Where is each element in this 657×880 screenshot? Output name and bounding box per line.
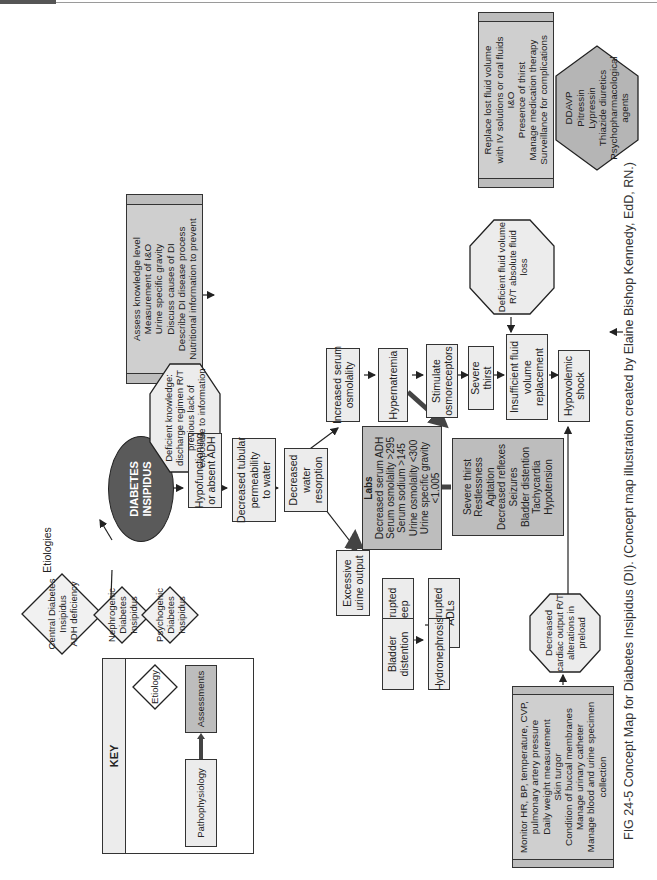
patho-hypovolemic-shock: Hypovolemicshock	[558, 350, 590, 422]
text-line: collection	[597, 757, 608, 798]
text-line: Nutritional information to prevent	[187, 218, 198, 360]
text-line: volume	[521, 341, 534, 413]
text-line: Etiology	[149, 670, 162, 704]
etiology-central-di: Central Diabetes Insipidus ADH deficienc…	[22, 574, 102, 654]
text-line: previous lack of	[185, 385, 196, 451]
patho-insufficient-fluid-replacement: Insufficient fluidvolumereplacement	[506, 334, 548, 420]
diagnosis-decreased-cardiac-output: Decreased cardiac output R/T alterations…	[530, 594, 600, 672]
text-line: Insipidus	[176, 596, 187, 634]
text-line: Lypressin	[586, 87, 597, 129]
text-line: <1.005	[430, 473, 441, 504]
text-line: Describe DI disease process	[176, 227, 187, 352]
text-line: Thiazide diuretics	[597, 70, 608, 146]
text-line: Tachycardia	[531, 460, 543, 513]
text-line: Nephrogenic	[106, 588, 117, 642]
text-line: replacement	[533, 341, 546, 413]
text-line: osmoreceptors	[442, 346, 455, 415]
text-line: exposure to information	[196, 368, 207, 467]
labs-title: Labs	[363, 476, 374, 499]
patho-decreased-tubular-permeability: Decreased tubularpermeabilityto water	[232, 438, 276, 522]
text-line: preload	[576, 617, 587, 649]
text-line: cardiac output R/T	[554, 594, 565, 672]
text-line: Hypotension	[543, 459, 555, 515]
text-line: Hypovolemic	[562, 356, 575, 416]
text-line: Decreased tubular	[235, 437, 248, 523]
medications: DDAVP Pitressin Lypressin Thiazide diure…	[556, 46, 638, 170]
text-line: Urine specific gravity	[419, 442, 430, 534]
patho-hypernatremia: Hypernatremia	[378, 348, 408, 422]
text-line: Urine osmolality <300	[408, 440, 419, 536]
text-line: Seizures	[508, 468, 520, 507]
text-line: Serum sodium >145	[396, 443, 407, 533]
key-arrow	[197, 731, 205, 761]
text-line: Serum osmolality >295	[385, 437, 396, 539]
text-line: Manage urinary catheter	[574, 724, 585, 830]
patho-stimulate-osmoreceptors: Stimulateosmoreceptors	[426, 344, 458, 418]
intervention-cardiac-monitoring: Monitor HR, BP, temperature, CVP, pulmon…	[512, 686, 614, 868]
text-line: Decreased	[287, 455, 300, 506]
text-line: alterations in	[565, 606, 576, 660]
text-line: Stimulate	[430, 346, 443, 415]
key-pathophysiology: Pathophysiology	[185, 759, 217, 847]
text-line: shock	[574, 356, 587, 416]
text-line: Restlessness	[473, 457, 485, 516]
key-etiology: Etiology	[133, 665, 177, 709]
figure-label: FIG 24-5	[622, 791, 636, 840]
text-line: Surveillance for complications	[538, 35, 549, 165]
text-line: Insipidus	[128, 596, 139, 634]
text-line: Replace lost fluid volume	[482, 46, 493, 155]
text-line: Hydronephrosis	[433, 617, 446, 691]
text-line: permeability	[248, 437, 261, 523]
text-line: Deficient fluid volume	[496, 222, 507, 312]
text-line: Urine specific gravity	[153, 244, 164, 334]
text-line: urine output	[353, 555, 366, 610]
text-line: Decreased	[543, 610, 554, 656]
figure-caption: FIG 24-5 Concept Map for Diabetes Insipi…	[622, 162, 636, 840]
text-line: Insipidus	[57, 595, 68, 633]
text-line: Decreased serum ADH	[374, 437, 385, 539]
text-line: water	[300, 455, 313, 506]
text-line: Pitressin	[575, 89, 586, 127]
patho-hydronephrosis: Hydronephrosis	[428, 618, 450, 690]
text-line: Discuss causes of DI	[165, 243, 176, 334]
text-line: Diabetes	[117, 596, 128, 634]
text-line: loss	[518, 259, 529, 276]
text-line: Severe thirst	[469, 351, 494, 405]
text-line: resorption	[312, 455, 325, 506]
text-line: Pathophysiology	[195, 768, 208, 838]
figure-title: Concept Map for Diabetes Insipidus (DI).	[622, 561, 636, 787]
text-line: Hypernatremia	[387, 351, 400, 420]
text-line: pulmonary artery pressure	[529, 720, 540, 834]
patho-severe-thirst: Severe thirst	[468, 346, 494, 410]
patho-bladder-distention: Bladderdistention	[382, 618, 414, 690]
text-line: Severe thirst	[462, 459, 474, 515]
text-line: distention	[398, 632, 411, 677]
patho-increased-serum-osmolality: Increased serumosmolality	[326, 348, 360, 422]
text-line: Etiologies	[41, 527, 54, 573]
assessment-symptoms: Severe thirst Restlessness Agitation Dec…	[452, 438, 564, 536]
intervention-knowledge: Assess knowledge level Measurement of I&…	[126, 194, 203, 384]
etiology-psychogenic-di: Psychogenic Diabetes Insipidus	[142, 587, 198, 643]
text-line: Skin turgor	[552, 753, 563, 800]
arrow-etiologies-to-central	[100, 520, 112, 540]
figure-credit: (Concept map illustration created by Ela…	[622, 162, 636, 558]
text-line: Decreased reflexes	[496, 444, 508, 530]
text-line: Insufficient fluid	[508, 341, 521, 413]
intervention-fluid-replacement: Replace lost fluid volume with IV soluti…	[478, 12, 554, 188]
text-line: Condition of buccal membranes	[563, 708, 574, 846]
key-legend: KEY Etiology Assessments Pathophysiology	[102, 658, 254, 854]
text-line: Daily weight measurement	[541, 719, 552, 834]
key-assessments: Assessments	[185, 665, 217, 733]
text-line: discharge regimen R/T	[174, 370, 185, 466]
text-line: Monitor HR, BP, temperature, CVP,	[518, 701, 529, 853]
concept-map: Assess knowledge level Measurement of I&…	[0, 0, 657, 880]
key-title: KEY	[108, 745, 121, 768]
text-line: Diabetes	[165, 596, 176, 634]
assessment-labs: Labs Decreased serum ADH Serum osmolalit…	[362, 426, 442, 550]
text-line: Assessments	[195, 671, 208, 728]
text-line: with IV solutions or oral fluids	[494, 37, 505, 164]
text-line: Presence of thirst	[516, 62, 527, 138]
patho-excessive-urine-output: Excessiveurine output	[336, 550, 370, 616]
text-line: Excessive	[341, 555, 354, 610]
text-line: Deficient knowledge:	[163, 374, 174, 462]
